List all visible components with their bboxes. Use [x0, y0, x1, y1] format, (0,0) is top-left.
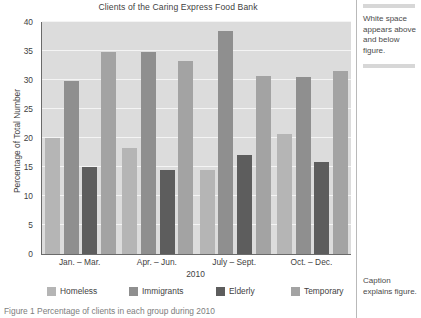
- legend-swatch-icon: [216, 287, 225, 296]
- bar: [296, 77, 311, 254]
- figure-panel: Clients of the Caring Express Food Bank …: [0, 0, 356, 318]
- chart-title: Clients of the Caring Express Food Bank: [0, 2, 356, 12]
- bar: [200, 170, 215, 254]
- annotation-white-space: White space appears above and below figu…: [363, 14, 421, 56]
- legend-label: Elderly: [229, 286, 255, 296]
- bar: [237, 155, 252, 254]
- legend-label: Temporary: [304, 286, 344, 296]
- legend-item: Immigrants: [129, 286, 183, 296]
- bar: [314, 162, 329, 254]
- y-axis-tick-labels: 0510152025303540: [0, 22, 37, 254]
- y-axis-tick-label: 5: [28, 220, 33, 230]
- bar: [277, 134, 292, 254]
- annotation-divider-top: [363, 4, 415, 8]
- x-axis-tick-label: Oct. – Dec.: [290, 257, 332, 267]
- bar: [256, 76, 271, 254]
- x-axis-title: 2010: [41, 269, 350, 279]
- x-axis-tick-label: July – Sept.: [212, 257, 256, 267]
- legend-label: Homeless: [60, 286, 97, 296]
- bar: [160, 170, 175, 254]
- x-axis-tick-label: Jan. – Mar.: [59, 257, 100, 267]
- legend-item: Elderly: [216, 286, 255, 296]
- bar: [64, 81, 79, 254]
- figure-caption: Figure 1 Percentage of clients in each g…: [4, 306, 215, 316]
- legend-swatch-icon: [291, 287, 300, 296]
- bar: [122, 148, 137, 254]
- y-axis-tick-label: 20: [24, 133, 33, 143]
- chart-legend: HomelessImmigrantsElderlyTemporary: [41, 286, 350, 300]
- y-axis-tick-label: 35: [24, 46, 33, 56]
- bar: [333, 71, 348, 254]
- bar: [82, 167, 97, 254]
- y-axis-tick-label: 40: [24, 17, 33, 27]
- bar: [45, 138, 60, 254]
- y-axis-tick-label: 30: [24, 75, 33, 85]
- bar: [141, 52, 156, 254]
- y-axis-tick-label: 10: [24, 191, 33, 201]
- legend-item: Temporary: [291, 286, 344, 296]
- bars-layer: [42, 22, 351, 254]
- bar: [218, 31, 233, 254]
- legend-swatch-icon: [47, 287, 56, 296]
- annotation-caption-note: Caption explains figure.: [363, 276, 421, 297]
- x-axis-tick-label: Apr. – Jun.: [137, 257, 177, 267]
- legend-item: Homeless: [47, 286, 97, 296]
- bar: [178, 61, 193, 254]
- plot-area: [41, 22, 351, 255]
- legend-label: Immigrants: [142, 286, 183, 296]
- bar: [101, 52, 116, 254]
- annotation-divider-middle: [363, 64, 415, 68]
- y-axis-tick-label: 25: [24, 104, 33, 114]
- y-axis-tick-label: 0: [28, 249, 33, 259]
- annotation-column: White space appears above and below figu…: [356, 0, 421, 318]
- legend-swatch-icon: [129, 287, 138, 296]
- y-axis-tick-label: 15: [24, 162, 33, 172]
